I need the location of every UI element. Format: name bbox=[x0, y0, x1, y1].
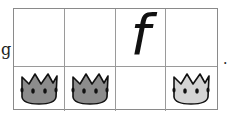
crown-icon-light bbox=[170, 71, 212, 107]
grid-cell-r2c1 bbox=[14, 67, 65, 111]
grid-cell-r1c1 bbox=[14, 9, 65, 67]
grid-cell-r2c4 bbox=[166, 67, 217, 111]
grid-cell-r1c4 bbox=[166, 9, 217, 67]
grid-cell-r1c3: f bbox=[116, 9, 167, 67]
grid-cell-r2c2 bbox=[65, 67, 116, 111]
puzzle-grid: f bbox=[13, 8, 218, 110]
grid-cell-r1c2 bbox=[65, 9, 116, 67]
crown-icon-dark bbox=[18, 71, 60, 107]
grid-cell-r2c3 bbox=[116, 67, 167, 111]
trailing-period: . bbox=[223, 52, 227, 66]
prefix-letter: g bbox=[1, 42, 11, 58]
crown-icon-dark bbox=[69, 71, 111, 107]
letter-f: f bbox=[116, 5, 166, 65]
